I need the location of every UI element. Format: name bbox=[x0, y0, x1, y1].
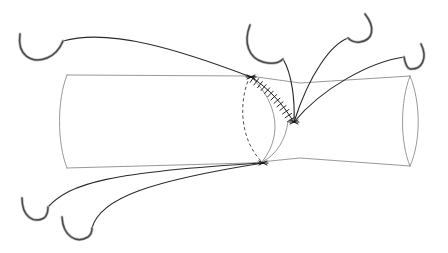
needle-lower-left-a-shadow bbox=[22, 198, 48, 220]
suture-threads-group bbox=[48, 37, 404, 228]
needle-upper-left: curved surgical needle, upper left bbox=[20, 34, 63, 60]
anchor-knots-group bbox=[246, 75, 299, 165]
tube-right-cap bbox=[410, 76, 418, 166]
thread-upper-right-a bbox=[294, 38, 348, 122]
tube-right-cap-inner bbox=[403, 76, 411, 166]
thread-upper-right-b bbox=[294, 57, 404, 122]
needle-mid-upper-shadow bbox=[247, 25, 283, 63]
tube-left-cap bbox=[60, 75, 68, 168]
surgical-needles-group: curved surgical needle, upper leftcurved… bbox=[20, 14, 424, 240]
surgical-diagram-canvas: Surgical anastomosis suture diagram curv… bbox=[0, 0, 448, 253]
tube-top-edge bbox=[67, 75, 410, 83]
thread-lower-left-b bbox=[92, 163, 263, 228]
tube-group bbox=[60, 75, 419, 168]
hidden-rim-dashed-arc bbox=[243, 76, 262, 162]
needle-lower-left-b-shadow bbox=[62, 217, 92, 240]
anastomosis-illustration: Surgical anastomosis suture diagram curv… bbox=[0, 0, 448, 253]
upper-anchor-knot bbox=[246, 75, 256, 79]
cross-section-group bbox=[243, 76, 288, 162]
thread-upper-left bbox=[63, 37, 251, 77]
needle-far-right: curved surgical needle, far right bbox=[404, 44, 424, 69]
needle-upper-right: curved surgical needle, upper right bbox=[348, 14, 372, 42]
